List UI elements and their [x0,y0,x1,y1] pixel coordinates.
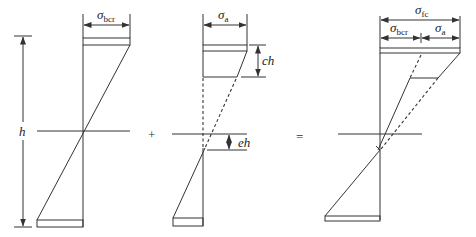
right-panel-combined-stress: σfc σbcr σa [325,2,460,221]
stress-distribution-diagram: h σbcr + σa [0,0,476,237]
sigma-split-dimension: σbcr σa [381,20,459,43]
sigma-bcr-part-label: σbcr [390,20,408,37]
left-panel-bending-stress: h σbcr [14,7,130,227]
sigma-bcr-label: σbcr [97,7,115,24]
ch-dimension: ch [241,45,274,77]
eh-label: eh [238,135,250,150]
ch-label: ch [262,53,274,68]
sigma-a-dimension: σa [203,7,247,45]
combined-stress-block [325,48,460,221]
equals-operator: = [296,129,303,144]
height-label: h [19,124,26,139]
sigma-a-label: σa [218,7,228,24]
height-dimension: h [14,36,32,227]
sigma-a-part-label: σa [435,20,445,37]
sigma-bcr-dimension: σbcr [83,7,130,38]
eh-dimension: eh [207,135,250,150]
additional-stress-block-bottom [173,148,205,226]
plus-operator: + [148,127,155,142]
middle-panel-additional-stress: σa ch eh [172,7,274,226]
bending-stress-block [37,38,130,227]
additional-stress-block-top [203,45,247,148]
sigma-fc-label: σfc [415,2,428,19]
